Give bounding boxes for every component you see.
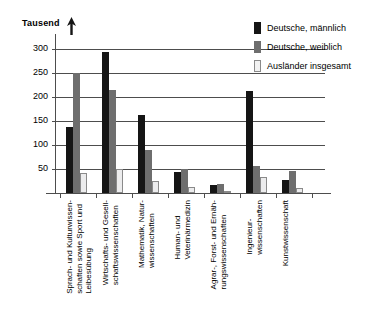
- bar: [210, 185, 217, 193]
- bar-group: [138, 49, 159, 193]
- bar: [80, 173, 87, 193]
- bar: [181, 169, 188, 193]
- bar: [253, 166, 260, 193]
- bar: [224, 191, 231, 193]
- bar: [102, 52, 109, 193]
- legend-swatch: [254, 41, 261, 53]
- bar: [217, 184, 224, 193]
- bar: [138, 115, 145, 193]
- x-axis-category-label: Human- und Veterinärmedizin: [173, 200, 192, 260]
- x-axis-category-label: Kunstwissenschaft: [281, 200, 291, 266]
- y-tick-label: 250: [8, 67, 48, 77]
- legend-item: Ausländer insgesamt: [254, 58, 351, 74]
- x-axis-category-label: Sprach- und Kulturwissen- schaften sowie…: [65, 200, 94, 294]
- bar-group: [102, 49, 123, 193]
- legend-label: Deutsche, weiblich: [267, 42, 342, 52]
- x-tick-mark: [60, 194, 61, 198]
- y-tick-label: 300: [8, 43, 48, 53]
- bar: [260, 177, 267, 193]
- y-tick-label: 50: [8, 163, 48, 173]
- bar: [109, 90, 116, 193]
- legend-item: Deutsche, weiblich: [254, 39, 351, 55]
- x-tick-mark: [204, 194, 205, 198]
- bar-chart: Tausend 50100150200250300 Sprach- und Ku…: [0, 0, 372, 330]
- y-axis-unit-label: Tausend: [22, 18, 60, 28]
- bar: [145, 150, 152, 193]
- legend-label: Deutsche, männlich: [267, 23, 346, 33]
- bar: [282, 180, 289, 193]
- up-arrow-icon: [66, 17, 77, 35]
- bar: [152, 181, 159, 193]
- legend: Deutsche, männlichDeutsche, weiblichAusl…: [254, 20, 351, 77]
- bar: [174, 172, 181, 193]
- bar: [289, 171, 296, 193]
- x-tick-mark: [240, 194, 241, 198]
- y-tick-label: 150: [8, 115, 48, 125]
- legend-swatch: [254, 22, 261, 34]
- legend-swatch: [254, 60, 261, 72]
- bar: [116, 169, 123, 193]
- bar: [246, 91, 253, 193]
- bar: [296, 188, 303, 193]
- x-axis-category-label: Agrar-, Forst- und Ernäh- rungswissensch…: [209, 200, 228, 289]
- x-tick-mark: [312, 194, 313, 198]
- bar-group: [210, 49, 231, 193]
- x-axis-line: [46, 193, 331, 194]
- x-tick-mark: [96, 194, 97, 198]
- x-axis-category-label: Ingenieur- wissenschaften: [245, 200, 264, 255]
- x-tick-mark: [168, 194, 169, 198]
- legend-label: Ausländer insgesamt: [267, 61, 351, 71]
- y-tick-label: 100: [8, 139, 48, 149]
- x-tick-mark: [132, 194, 133, 198]
- x-axis-category-label: Wirtschafts- und Gesell- schaftswissensc…: [101, 200, 120, 285]
- bar-group: [66, 49, 87, 193]
- bar-group: [174, 49, 195, 193]
- bar: [188, 187, 195, 193]
- legend-item: Deutsche, männlich: [254, 20, 351, 36]
- bar: [73, 73, 80, 193]
- x-axis-category-label: Mathematik, Natur- wissenschaften: [137, 200, 156, 268]
- bar: [66, 127, 73, 193]
- y-tick-label: 200: [8, 91, 48, 101]
- x-tick-mark: [276, 194, 277, 198]
